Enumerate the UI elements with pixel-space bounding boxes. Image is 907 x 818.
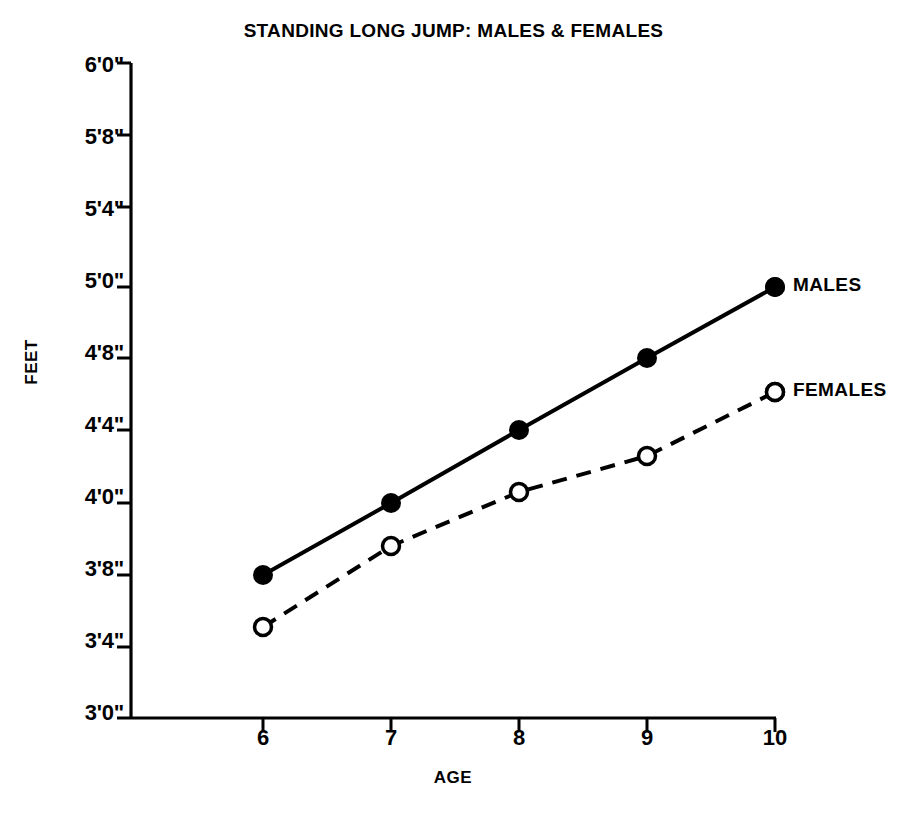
x-axis-ticks <box>263 718 775 732</box>
data-point-females-age-7 <box>383 538 400 555</box>
data-point-females-age-8 <box>511 484 528 501</box>
series-markers-males <box>253 277 785 585</box>
data-point-males-age-9 <box>637 348 657 368</box>
legend-marker-females-icon <box>767 384 784 401</box>
chart-figure: STANDING LONG JUMP: MALES & FEMALES FEET… <box>0 0 907 818</box>
legend-marker-males-icon <box>765 277 785 297</box>
data-point-males-age-8 <box>509 420 529 440</box>
y-axis-ticks <box>117 63 131 718</box>
plot-area <box>0 0 907 818</box>
data-point-males-age-6 <box>253 565 273 585</box>
data-point-females-age-6 <box>255 619 272 636</box>
data-point-males-age-7 <box>381 493 401 513</box>
data-point-females-age-9 <box>639 448 656 465</box>
